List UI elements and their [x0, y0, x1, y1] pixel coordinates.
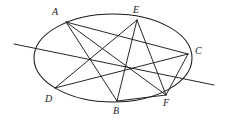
vertex-label-E: E: [133, 5, 139, 15]
vertex-label-A: A: [52, 7, 58, 17]
chord-BE: [117, 20, 137, 101]
vertex-label-B: B: [113, 106, 119, 116]
pascal-line: [14, 44, 214, 85]
chord-AF: [66, 22, 166, 95]
chord-group: [55, 20, 188, 101]
chord-BF: [117, 95, 166, 101]
vertex-label-F: F: [163, 98, 169, 108]
vertex-label-C: C: [195, 46, 202, 56]
chord-CF: [166, 54, 188, 95]
geometry-figure: A B C D E F: [0, 0, 225, 130]
ellipse-conic: [34, 14, 192, 102]
vertex-label-D: D: [45, 94, 52, 104]
chord-EF: [137, 20, 166, 95]
